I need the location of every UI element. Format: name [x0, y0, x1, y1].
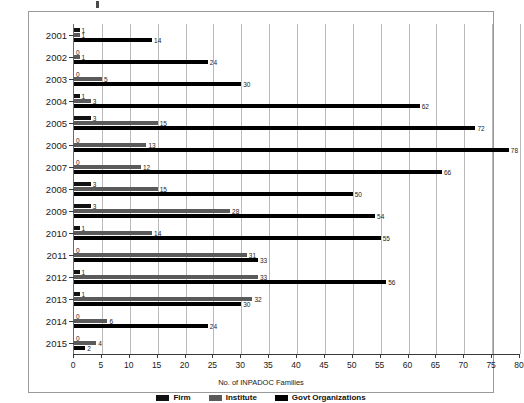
plot-inner: 2001111420020124200305302004136220053157… — [74, 24, 519, 354]
legend-item-0[interactable]: Firm — [156, 393, 190, 402]
plot-area: 2001111420020124200305302004136220053157… — [73, 24, 519, 354]
x-axis-tick-label: 0 — [71, 360, 76, 370]
bar-value-label: 30 — [243, 80, 250, 87]
bar-institute: 1 — [74, 55, 80, 59]
bar-govt: 24 — [74, 324, 208, 328]
x-axis-tick-label: 35 — [263, 360, 272, 370]
x-axis-tick-label: 25 — [208, 360, 217, 370]
bar-value-label: 2 — [87, 344, 91, 351]
bar-govt: 62 — [74, 104, 420, 108]
x-axis-tick-label: 80 — [514, 360, 523, 370]
bar-firm: 1 — [74, 292, 80, 296]
bar-firm: 3 — [74, 204, 91, 208]
x-axis-tick — [408, 354, 409, 358]
chart-row: 20140624 — [74, 310, 519, 332]
y-axis-label: 2008 — [46, 184, 67, 195]
bar-govt: 78 — [74, 148, 509, 152]
x-axis-tick — [296, 354, 297, 358]
x-axis-tick — [491, 354, 492, 358]
y-axis-label: 2010 — [46, 228, 67, 239]
chart-row: 20041362 — [74, 90, 519, 112]
chart-frame: 2001111420020124200305302004136220053157… — [28, 11, 494, 393]
chart-row: 201313230 — [74, 288, 519, 310]
bar-institute: 4 — [74, 341, 96, 345]
bar-value-label: 72 — [477, 124, 484, 131]
legend-swatch-icon — [156, 395, 169, 401]
x-axis-tick — [463, 354, 464, 358]
x-axis-tick — [73, 354, 74, 358]
x-axis-tick — [435, 354, 436, 358]
bar-institute: 15 — [74, 187, 158, 191]
legend-swatch-icon — [209, 395, 222, 401]
bar-institute: 6 — [74, 319, 107, 323]
bar-value-label: 14 — [154, 36, 161, 43]
chart-row: 200601378 — [74, 134, 519, 156]
bar-institute: 3 — [74, 99, 91, 103]
y-axis-label: 2001 — [46, 30, 67, 41]
x-axis-tick-label: 70 — [459, 360, 468, 370]
x-axis-tick-label: 30 — [236, 360, 245, 370]
bar-govt: 2 — [74, 346, 85, 350]
bar-value-label: 56 — [388, 278, 395, 285]
x-axis-tick-label: 10 — [124, 360, 133, 370]
y-axis-label: 2003 — [46, 74, 67, 85]
legend-item-1[interactable]: Institute — [209, 393, 257, 402]
bar-govt: 55 — [74, 236, 381, 240]
bar-value-label: 4 — [98, 339, 102, 346]
x-axis-tick — [324, 354, 325, 358]
chart-row: 201011455 — [74, 222, 519, 244]
x-axis-tick — [240, 354, 241, 358]
chart-row: 200531572 — [74, 112, 519, 134]
bar-firm: 1 — [74, 226, 80, 230]
y-axis-label: 2005 — [46, 118, 67, 129]
title-remnant — [96, 1, 99, 8]
bar-firm: 1 — [74, 28, 80, 32]
chart-row: 20030530 — [74, 68, 519, 90]
chart-row: 200701266 — [74, 156, 519, 178]
y-axis-label: 2004 — [46, 96, 67, 107]
bar-value-label: 55 — [383, 234, 390, 241]
chart-row: 201103133 — [74, 244, 519, 266]
y-axis-label: 2013 — [46, 294, 67, 305]
bar-govt: 66 — [74, 170, 442, 174]
bar-institute: 12 — [74, 165, 141, 169]
x-axis-tick — [212, 354, 213, 358]
x-axis-tick-label: 55 — [375, 360, 384, 370]
bar-value-label: 30 — [243, 300, 250, 307]
x-axis-tick-label: 50 — [347, 360, 356, 370]
bar-institute: 13 — [74, 143, 146, 147]
bar-govt: 72 — [74, 126, 475, 130]
x-axis-tick — [519, 354, 520, 358]
bar-value-label: 24 — [210, 58, 217, 65]
bar-firm: 1 — [74, 94, 80, 98]
bar-govt: 24 — [74, 60, 208, 64]
bar-institute: 31 — [74, 253, 247, 257]
legend-label: Institute — [226, 393, 257, 402]
y-axis-label: 2002 — [46, 52, 67, 63]
x-axis-tick — [380, 354, 381, 358]
chart-row: 200932854 — [74, 200, 519, 222]
x-axis-tick-label: 65 — [431, 360, 440, 370]
chart-row: 20011114 — [74, 24, 519, 46]
bar-govt: 56 — [74, 280, 386, 284]
bar-govt: 33 — [74, 258, 258, 262]
gridline — [520, 24, 521, 354]
bar-institute: 15 — [74, 121, 158, 125]
x-axis-tick — [101, 354, 102, 358]
x-axis-tick-label: 15 — [152, 360, 161, 370]
x-axis-tick-label: 60 — [403, 360, 412, 370]
x-axis-tick-label: 45 — [319, 360, 328, 370]
bar-institute: 5 — [74, 77, 102, 81]
x-axis-tick — [185, 354, 186, 358]
bar-govt: 54 — [74, 214, 375, 218]
y-axis-label: 2012 — [46, 272, 67, 283]
bar-value-label: 50 — [355, 190, 362, 197]
bar-institute: 32 — [74, 297, 252, 301]
chart-row: 201213356 — [74, 266, 519, 288]
x-axis-tick-label: 75 — [486, 360, 495, 370]
bar-firm: 3 — [74, 116, 91, 120]
y-axis-label: 2006 — [46, 140, 67, 151]
legend-item-2[interactable]: Govt Organizations — [275, 393, 366, 402]
x-axis-title: No. of INPADOC Families — [29, 378, 493, 387]
